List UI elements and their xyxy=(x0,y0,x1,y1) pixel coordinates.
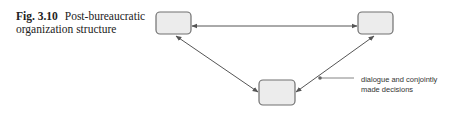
org-diagram xyxy=(0,0,459,115)
annotation-line-1: dialogue and conjointly xyxy=(361,75,456,85)
node-bottom xyxy=(259,80,295,105)
node-top-right xyxy=(358,12,393,34)
annotation-dot xyxy=(318,76,322,80)
annotation-text: dialogue and conjointly made decisions xyxy=(361,75,456,95)
annotation-line-2: made decisions xyxy=(361,85,456,95)
edge-left xyxy=(176,36,258,92)
node-top-left xyxy=(156,12,191,34)
